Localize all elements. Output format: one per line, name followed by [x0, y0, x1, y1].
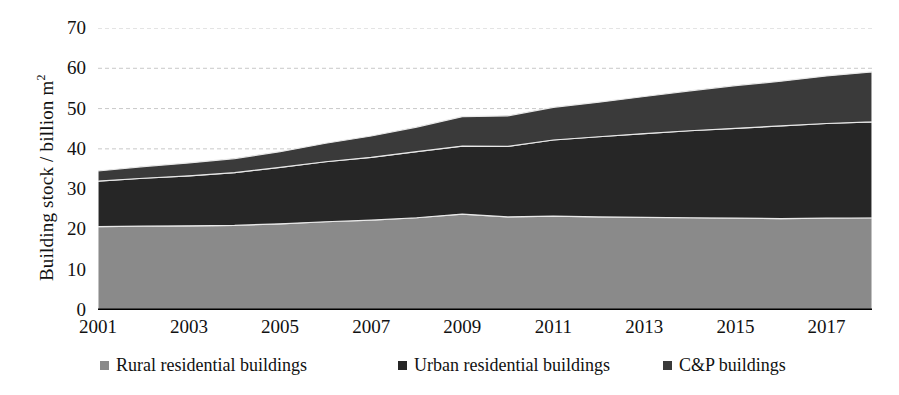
area-series-rural-residential-buildings — [98, 214, 872, 310]
y-axis-tick-label: 10 — [40, 260, 86, 279]
legend-swatch-icon — [398, 361, 407, 370]
x-axis-tick-label: 2007 — [336, 316, 406, 338]
stacked-area-chart-figure: Building stock / billion m2 010203040506… — [0, 0, 899, 395]
y-axis-tick-label: 60 — [40, 58, 86, 77]
x-axis-tick-label: 2015 — [700, 316, 770, 338]
area-chart-svg — [98, 28, 872, 310]
x-axis-tick-label: 2013 — [609, 316, 679, 338]
area-series-group — [98, 72, 872, 310]
legend-item[interactable]: Urban residential buildings — [398, 352, 610, 378]
x-axis-tick-label: 2001 — [63, 316, 133, 338]
x-axis-tick-labels: 200120032005200720092011201320152017 — [98, 316, 872, 342]
legend-swatch-icon — [100, 361, 109, 370]
legend-item-label: C&P buildings — [679, 355, 786, 376]
legend-item-label: Rural residential buildings — [116, 355, 307, 376]
x-axis-tick-label: 2011 — [518, 316, 588, 338]
x-axis-tick-label: 2003 — [154, 316, 224, 338]
legend-item-label: Urban residential buildings — [414, 355, 610, 376]
y-axis-tick-label: 70 — [40, 18, 86, 37]
x-axis-tick-label: 2009 — [427, 316, 497, 338]
legend-swatch-icon — [663, 361, 672, 370]
chart-legend: Rural residential buildingsUrban residen… — [0, 352, 899, 380]
y-axis-tick-label: 50 — [40, 99, 86, 118]
legend-item[interactable]: C&P buildings — [663, 352, 786, 378]
y-axis-tick-label: 30 — [40, 179, 86, 198]
plot-area — [98, 28, 872, 310]
y-axis-tick-label: 20 — [40, 219, 86, 238]
y-axis-tick-label: 40 — [40, 139, 86, 158]
x-axis-tick-label: 2017 — [791, 316, 861, 338]
legend-item[interactable]: Rural residential buildings — [100, 352, 307, 378]
x-axis-tick-label: 2005 — [245, 316, 315, 338]
